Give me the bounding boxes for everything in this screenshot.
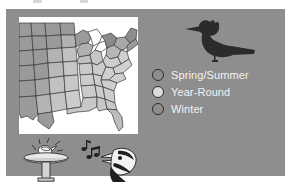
birdbath-pedestal: [42, 162, 50, 179]
birdbath-base: [38, 178, 54, 181]
music-note: [86, 146, 99, 159]
legend-swatch-winter: [152, 103, 164, 115]
state-shape: [34, 63, 49, 80]
state-shape: [19, 50, 34, 66]
legend-label-spring-summer: Spring/Summer: [171, 69, 249, 81]
state-shape: [19, 96, 38, 120]
state-shape: [63, 61, 78, 76]
bird-beak: [185, 26, 201, 32]
state-shape: [46, 35, 62, 49]
state-shape: [19, 65, 35, 81]
state-shape: [38, 112, 54, 129]
birdbath-with-bird: [22, 137, 70, 183]
top-text-artifact: [33, 0, 42, 3]
state-shape: [45, 23, 61, 36]
legend-item-year-round[interactable]: Year-Round: [152, 84, 282, 100]
state-shape: [81, 85, 97, 98]
state-shape: [19, 36, 33, 51]
state-shape: [19, 23, 32, 37]
legend-item-spring-summer[interactable]: Spring/Summer: [152, 67, 282, 83]
state-shape: [65, 90, 81, 109]
bird-range-map-figure: Spring/Summer Year-Round Winter: [0, 0, 291, 184]
bird-eye: [118, 156, 122, 160]
figure-panel: Spring/Summer Year-Round Winter: [6, 9, 285, 176]
state-shape: [79, 63, 93, 75]
state-shape: [61, 35, 76, 48]
state-shape: [35, 78, 50, 96]
bird-head: [199, 20, 219, 36]
bird-leg: [214, 54, 216, 61]
state-shape: [80, 74, 95, 86]
state-shape: [64, 75, 79, 92]
legend-label-winter: Winter: [171, 103, 203, 115]
state-shape: [32, 36, 47, 50]
bird-foot: [212, 60, 218, 62]
state-shape: [48, 62, 64, 78]
state-shape: [107, 109, 123, 131]
state-shape: [47, 48, 63, 63]
legend-item-winter[interactable]: Winter: [152, 101, 282, 117]
state-shape: [49, 76, 65, 94]
bathing-bird-beak: [51, 146, 57, 151]
state-shape: [19, 80, 36, 97]
state-shape: [62, 47, 77, 62]
singing-bird-head: [80, 137, 138, 183]
top-text-artifact: [80, 0, 88, 3]
perched-bird-silhouette: [184, 19, 256, 64]
music-note: [81, 140, 91, 151]
legend-swatch-spring-summer: [152, 69, 164, 81]
state-shape: [50, 92, 67, 112]
state-shape: [36, 94, 52, 114]
range-legend: Spring/Summer Year-Round Winter: [152, 67, 282, 118]
music-notes: [81, 140, 99, 159]
united-states-range-map[interactable]: [19, 17, 138, 134]
state-shape: [31, 23, 46, 36]
legend-swatch-year-round: [152, 86, 164, 98]
state-shape: [60, 23, 75, 35]
state-shape: [33, 49, 48, 65]
bird-tail: [230, 46, 255, 55]
legend-label-year-round: Year-Round: [171, 86, 230, 98]
